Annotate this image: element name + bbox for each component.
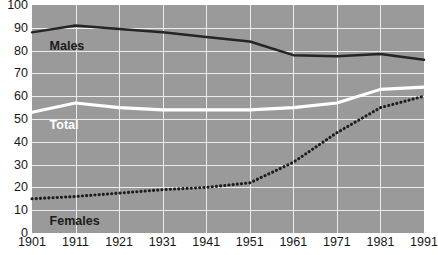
y-axis-tick-label: 70 xyxy=(14,67,28,80)
x-axis-tick-label: 1971 xyxy=(323,236,351,249)
y-axis-tick-label: 20 xyxy=(14,181,28,194)
y-axis-tick-label: 30 xyxy=(14,159,28,172)
y-axis-tick-label: 50 xyxy=(14,113,28,126)
y-axis-tick-label: 40 xyxy=(14,136,28,149)
series-label-males: Males xyxy=(50,40,85,53)
y-axis-tick-label: 60 xyxy=(14,90,28,103)
series-label-females: Females xyxy=(50,215,100,228)
x-axis-tick-label: 1941 xyxy=(192,236,220,249)
x-axis-tick-label: 1961 xyxy=(279,236,307,249)
y-axis-tick-label: 100 xyxy=(7,0,28,12)
series-line-total xyxy=(32,87,424,112)
x-axis-tick-label: 1911 xyxy=(62,236,89,249)
y-axis: 0102030405060708090100 xyxy=(0,0,32,240)
plot-area: Males Total Females xyxy=(32,5,424,233)
x-axis-tick-label: 1921 xyxy=(105,236,133,249)
y-axis-tick-label: 90 xyxy=(14,22,28,35)
series-lines xyxy=(32,5,424,233)
x-axis-tick-label: 1981 xyxy=(367,236,395,249)
series-label-total: Total xyxy=(50,119,79,132)
x-axis-tick-label: 1901 xyxy=(18,236,46,249)
y-axis-tick-label: 80 xyxy=(14,45,28,58)
y-axis-tick-label: 10 xyxy=(14,204,28,217)
series-line-females xyxy=(32,96,424,199)
x-axis-tick-label: 1991 xyxy=(410,236,438,249)
x-axis-tick-label: 1931 xyxy=(149,236,177,249)
x-axis-tick-label: 1951 xyxy=(236,236,264,249)
series-line-males xyxy=(32,26,424,60)
x-axis: 1901191119211931194119511961197119811991 xyxy=(32,234,424,255)
